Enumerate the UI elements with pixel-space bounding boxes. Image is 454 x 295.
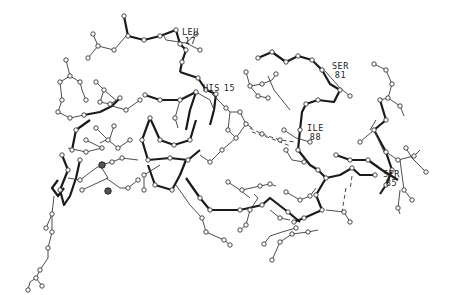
residue-label-ile-88: ILE 88 [307,124,324,142]
residue-label-his-15: HIS 15 [203,84,235,93]
structure-svg [0,0,454,295]
atoms [26,14,428,292]
residue-label-leu-17: LEU 17 [182,28,199,46]
residue-label-ser-81: SER 81 [332,62,349,80]
molecular-structure-diagram: LEU 17 HIS 15 SER 81 ILE 88 SER 85 [0,0,454,295]
residue-label-ser-85: SER 85 [383,170,400,188]
backbone-bonds [52,16,398,222]
